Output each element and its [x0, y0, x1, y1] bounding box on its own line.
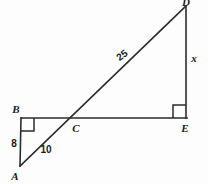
- length-label-ab: 8: [11, 138, 17, 149]
- length-label-de-variable: x: [190, 52, 197, 64]
- segment-group: [20, 6, 187, 166]
- vertex-label-b: B: [11, 103, 19, 115]
- vertex-label-d: D: [181, 0, 190, 8]
- vertex-label-c: C: [72, 122, 80, 134]
- geometry-figure: A B C D E 8 10 25 x: [0, 0, 208, 184]
- length-label-ac: 10: [40, 144, 52, 155]
- segment-ab: [20, 118, 21, 166]
- vertex-label-a: A: [10, 170, 18, 182]
- vertex-label-e: E: [180, 122, 188, 134]
- segment-ad-hypotenuse: [20, 6, 186, 166]
- right-angle-marker-b: [21, 118, 34, 131]
- right-angle-marker-e: [173, 105, 186, 118]
- geometry-diagram-canvas: A B C D E 8 10 25 x: [0, 0, 208, 184]
- length-label-cd: 25: [114, 47, 130, 63]
- length-labels: 8 10 25 x: [11, 47, 197, 155]
